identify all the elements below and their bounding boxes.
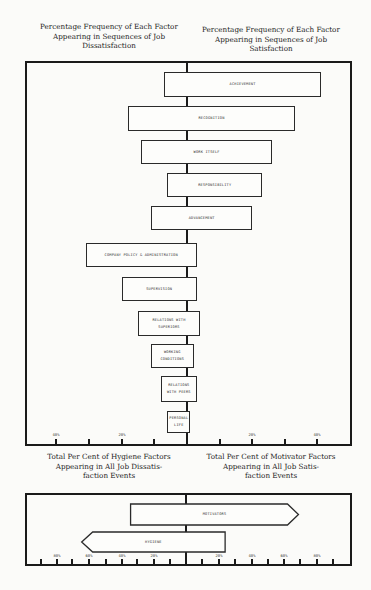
axis-tick-label: 80% — [54, 553, 61, 558]
axis-tick — [218, 559, 220, 565]
hygiene-label: HYGIENE — [82, 532, 225, 552]
axis-tick — [56, 559, 58, 565]
axis-tick — [88, 559, 90, 565]
axis-tick — [136, 559, 138, 565]
axis-tick — [283, 559, 285, 565]
axis-tick — [153, 559, 155, 565]
axis-tick-label: 20% — [216, 553, 223, 558]
axis-tick-label: 40% — [249, 553, 256, 558]
axis-tick — [71, 559, 73, 565]
axis-tick — [316, 559, 318, 565]
axis-tick — [105, 559, 107, 565]
axis-tick-label: 40% — [119, 553, 126, 558]
axis-tick — [201, 559, 203, 565]
axis-tick — [234, 559, 236, 565]
axis-tick — [121, 559, 123, 565]
axis-tick-label: 60% — [281, 553, 288, 558]
axis-tick — [299, 559, 301, 565]
axis-tick — [332, 559, 334, 565]
bottom-arrow-bars — [0, 0, 371, 590]
axis-tick — [267, 559, 269, 565]
axis-tick-label: 80% — [314, 553, 321, 558]
axis-tick — [251, 559, 253, 565]
axis-tick-label: 20% — [151, 553, 158, 558]
axis-tick-label: 60% — [86, 553, 93, 558]
axis-tick — [40, 559, 42, 565]
axis-tick — [169, 559, 171, 565]
motivators-label: MOTIVATORS — [131, 504, 299, 525]
